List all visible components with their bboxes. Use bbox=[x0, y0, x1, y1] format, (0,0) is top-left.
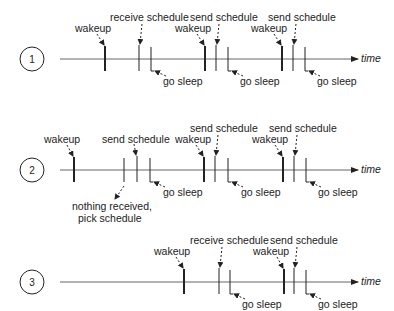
nothing-received-label: nothing received, bbox=[72, 200, 152, 212]
go-sleep-label: go sleep bbox=[242, 298, 282, 310]
wakeup-label: wakeup bbox=[174, 22, 211, 34]
scenario-number: 1 bbox=[29, 54, 35, 65]
send-schedule-label: send schedule bbox=[269, 122, 337, 134]
send-schedule-label: send schedule bbox=[270, 234, 338, 246]
scenario-number: 3 bbox=[29, 277, 35, 288]
scenario-1: 1 time wakeup receive schedule go sleep … bbox=[20, 11, 381, 87]
wakeup-label: wakeup bbox=[250, 22, 287, 34]
send-schedule-label: send schedule bbox=[190, 11, 258, 23]
go-sleep-label: go sleep bbox=[241, 186, 281, 198]
timeline-diagram: 1 time wakeup receive schedule go sleep … bbox=[0, 0, 394, 311]
go-sleep-label: go sleep bbox=[163, 75, 203, 87]
scenario-3: 3 time wakeup receive schedule go sleep … bbox=[20, 234, 381, 310]
time-label: time bbox=[361, 163, 381, 175]
scenario-2: 2 time wakeup nothing received, pick sch… bbox=[20, 122, 381, 224]
time-label: time bbox=[361, 52, 381, 64]
wakeup-label: wakeup bbox=[174, 133, 211, 145]
scenario-number: 2 bbox=[29, 165, 35, 176]
go-sleep-label: go sleep bbox=[163, 186, 203, 198]
send-schedule-label: send schedule bbox=[190, 122, 258, 134]
go-sleep-label: go sleep bbox=[318, 298, 358, 310]
go-sleep-label: go sleep bbox=[240, 75, 280, 87]
wakeup-label: wakeup bbox=[43, 133, 80, 145]
go-sleep-label: go sleep bbox=[317, 75, 357, 87]
go-sleep-label: go sleep bbox=[318, 186, 358, 198]
wakeup-label: wakeup bbox=[74, 22, 111, 34]
wakeup-label: wakeup bbox=[251, 133, 288, 145]
pick-schedule-label: pick schedule bbox=[78, 212, 142, 224]
send-schedule-label: send schedule bbox=[268, 11, 336, 23]
send-schedule-label: send schedule bbox=[102, 133, 170, 145]
wakeup-label: wakeup bbox=[153, 245, 190, 257]
wakeup-label: wakeup bbox=[252, 245, 289, 257]
time-label: time bbox=[361, 275, 381, 287]
